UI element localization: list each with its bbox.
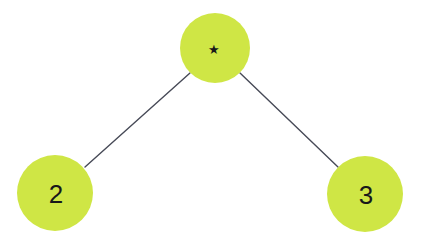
- tree-diagram: ★ 2 3: [0, 0, 421, 245]
- tree-node-right-child[interactable]: 3: [327, 156, 403, 232]
- tree-node-root[interactable]: ★: [180, 13, 250, 83]
- edge-root-to-right: [240, 73, 338, 167]
- tree-node-left-child[interactable]: 2: [17, 155, 93, 231]
- edge-root-to-left: [85, 73, 190, 167]
- tree-node-left-label: 2: [49, 181, 63, 207]
- tree-node-right-label: 3: [359, 182, 373, 208]
- star-icon: ★: [208, 43, 220, 56]
